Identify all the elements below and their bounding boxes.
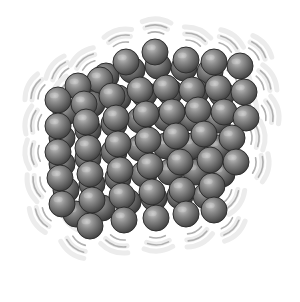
sphere-highlight: [116, 213, 125, 219]
atom-sphere: [45, 139, 71, 165]
sphere-highlight: [236, 85, 245, 91]
sphere-highlight: [110, 137, 119, 143]
vibration-arc: [111, 235, 126, 240]
sphere-highlight: [50, 119, 59, 125]
sphere-highlight: [172, 155, 181, 161]
sphere-highlight: [174, 183, 183, 189]
atom-sphere: [75, 135, 101, 161]
vibration-arc: [256, 76, 264, 90]
sphere-highlight: [76, 97, 85, 103]
atom-sphere: [201, 49, 227, 75]
vibration-arc: [148, 32, 164, 34]
sphere-highlight: [82, 219, 91, 225]
sphere-highlight: [158, 81, 167, 87]
vibration-arc: [150, 236, 166, 238]
sphere-highlight: [54, 197, 63, 203]
sphere-highlight: [178, 207, 187, 213]
vibration-arc: [250, 129, 252, 145]
vibration-arc: [186, 40, 200, 46]
sphere-highlight: [168, 129, 177, 135]
atom-sphere: [153, 75, 179, 101]
sphere-highlight: [206, 203, 215, 209]
atom-sphere: [45, 113, 71, 139]
sphere-highlight: [132, 83, 141, 89]
vibration-arc: [40, 177, 45, 192]
sphere-highlight: [52, 171, 61, 177]
atom-sphere: [107, 157, 133, 183]
atom-sphere: [139, 179, 165, 205]
atom-sphere: [113, 49, 139, 75]
atom-sphere: [137, 153, 163, 179]
sphere-highlight: [142, 159, 151, 165]
atom-sphere: [199, 173, 225, 199]
vibration-arc: [38, 85, 45, 99]
sphere-highlight: [78, 115, 87, 121]
atom-sphere: [185, 97, 211, 123]
sphere-highlight: [184, 83, 193, 89]
atom-sphere: [191, 121, 217, 147]
sphere-highlight: [118, 55, 127, 61]
atom-sphere: [219, 125, 245, 151]
sphere-highlight: [82, 167, 91, 173]
vibration-arc: [38, 115, 42, 130]
vibration-arc: [260, 121, 265, 150]
sphere-highlight: [206, 55, 215, 61]
atom-sphere: [231, 79, 257, 105]
vibration-arc: [223, 190, 232, 203]
atom-sphere: [99, 83, 125, 109]
sphere-highlight: [114, 189, 123, 195]
atom-sphere: [133, 101, 159, 127]
vibration-arc: [142, 19, 171, 23]
sphere-highlight: [238, 111, 247, 117]
sphere-highlight: [92, 73, 101, 79]
sphere-highlight: [204, 179, 213, 185]
sphere-highlight: [216, 105, 225, 111]
sphere-highlight: [50, 145, 59, 151]
sphere-highlight: [190, 103, 199, 109]
atom-sphere: [47, 165, 73, 191]
sphere-highlight: [70, 79, 79, 85]
sphere-highlight: [104, 89, 113, 95]
atom-sphere: [169, 177, 195, 203]
vibration-arc: [25, 140, 29, 169]
sphere-highlight: [112, 163, 121, 169]
atom-sphere: [167, 149, 193, 175]
atom-sphere: [127, 77, 153, 103]
atom-sphere: [103, 105, 129, 131]
atom-lattice-illustration: [0, 0, 300, 302]
atom-sphere: [227, 53, 253, 79]
atom-sphere: [173, 201, 199, 227]
atom-sphere: [45, 87, 71, 113]
vibration-arc: [42, 208, 51, 221]
sphere-highlight: [144, 185, 153, 191]
vibration-arc: [144, 246, 173, 251]
vibration-arc: [262, 106, 266, 121]
atom-sphere: [109, 183, 135, 209]
atom-sphere: [142, 39, 168, 65]
atom-sphere: [111, 207, 137, 233]
atom-sphere: [159, 99, 185, 125]
sphere-highlight: [80, 141, 89, 147]
atom-sphere: [223, 149, 249, 175]
atom-sphere: [77, 161, 103, 187]
atom-sphere: [135, 127, 161, 153]
sphere-highlight: [84, 193, 93, 199]
sphere-highlight: [202, 153, 211, 159]
sphere-highlight: [224, 131, 233, 137]
sphere-highlight: [232, 59, 241, 65]
atom-sphere: [143, 205, 169, 231]
sphere-highlight: [140, 133, 149, 139]
atom-sphere: [205, 75, 231, 101]
sphere-highlight: [228, 155, 237, 161]
atom-sphere: [77, 213, 103, 239]
sphere-highlight: [210, 81, 219, 87]
sphere-highlight: [50, 93, 59, 99]
atom-sphere: [49, 191, 75, 217]
sphere-highlight: [138, 107, 147, 113]
sphere-highlight: [164, 105, 173, 111]
vibration-arc: [38, 146, 40, 162]
atom-sphere: [201, 197, 227, 223]
sphere-highlight: [147, 45, 156, 51]
sphere-highlight: [196, 127, 205, 133]
sphere-highlight: [148, 211, 157, 217]
